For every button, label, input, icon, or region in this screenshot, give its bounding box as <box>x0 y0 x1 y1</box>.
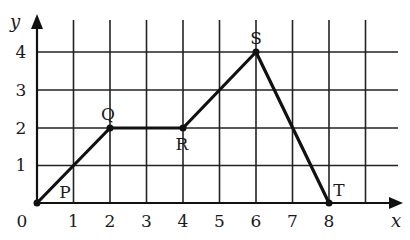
x-axis-label: x <box>391 210 401 231</box>
coordinate-graph: 0 1 2 3 4 5 6 7 8 1 2 3 4 y x P Q R S T <box>0 0 410 240</box>
svg-text:1: 1 <box>16 155 27 175</box>
svg-text:3: 3 <box>141 211 152 231</box>
label-t: T <box>333 180 345 200</box>
svg-text:2: 2 <box>16 118 27 138</box>
svg-text:2: 2 <box>105 211 116 231</box>
origin-label: 0 <box>17 211 28 231</box>
label-r: R <box>176 134 190 154</box>
y-axis-label: y <box>9 11 21 32</box>
svg-text:5: 5 <box>214 211 225 231</box>
svg-text:8: 8 <box>324 211 335 231</box>
svg-text:6: 6 <box>251 211 262 231</box>
y-tick-labels: 1 2 3 4 <box>16 42 27 175</box>
grid-vertical-lines <box>74 20 366 203</box>
label-q: Q <box>101 104 115 124</box>
point-t <box>326 200 333 207</box>
svg-text:7: 7 <box>287 211 298 231</box>
point-origin <box>34 200 41 207</box>
x-tick-labels: 0 1 2 3 4 5 6 7 8 <box>17 211 335 231</box>
svg-text:4: 4 <box>16 42 27 62</box>
svg-text:4: 4 <box>178 211 189 231</box>
svg-text:3: 3 <box>16 80 27 100</box>
point-q <box>107 125 114 132</box>
svg-text:1: 1 <box>68 211 79 231</box>
label-p: P <box>59 182 70 202</box>
point-r <box>180 125 187 132</box>
x-axis-arrow-icon <box>389 197 403 209</box>
point-s <box>253 49 260 56</box>
y-axis-arrow-icon <box>31 14 43 29</box>
label-s: S <box>250 28 262 48</box>
point-labels: P Q R S T <box>59 28 345 202</box>
